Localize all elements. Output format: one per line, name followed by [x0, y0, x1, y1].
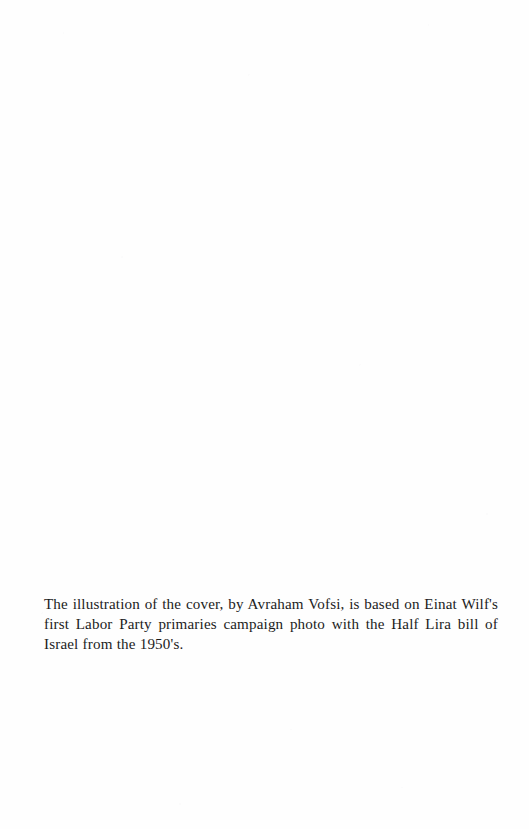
cover-illustration-credit-text: The illustration of the cover, by Avraha…: [44, 594, 498, 655]
scanned-page: The illustration of the cover, by Avraha…: [0, 0, 529, 829]
page-upper-blank-area: [0, 0, 529, 592]
cover-illustration-credit-block: The illustration of the cover, by Avraha…: [44, 594, 498, 655]
page-lower-blank-area: [0, 660, 529, 829]
